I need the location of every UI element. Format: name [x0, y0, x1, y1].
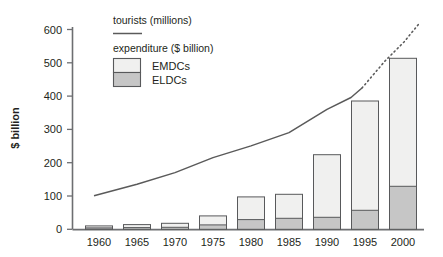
legend-swatch-eldcs: [114, 73, 141, 87]
y-tick-label-100: 100: [44, 190, 62, 202]
bar-group-1990: [314, 155, 341, 230]
bar-segment-eldcs-1985: [276, 218, 303, 229]
y-tick-label-600: 600: [44, 24, 62, 36]
chart-svg: 600 500 400 300 200 100 0 $ billion 1960…: [0, 0, 443, 257]
bar-segment-eldcs-1965: [124, 228, 151, 230]
chart-container: 600 500 400 300 200 100 0 $ billion 1960…: [0, 0, 443, 257]
bar-group-1980: [238, 197, 265, 229]
x-tick-label-1960: 1960: [87, 236, 111, 248]
y-tick-label-500: 500: [44, 57, 62, 69]
bar-group-1975: [200, 216, 227, 229]
x-tick-label-2000: 2000: [391, 236, 415, 248]
legend-bar-group-label: expenditure ($ billion): [113, 42, 213, 54]
x-tick-label-1990: 1990: [315, 236, 339, 248]
bar-segment-eldcs-1960: [86, 228, 113, 229]
x-tick-label-1970: 1970: [163, 236, 187, 248]
bar-group-1960: [86, 226, 113, 229]
x-tick-label-1985: 1985: [277, 236, 301, 248]
bar-segment-eldcs-1970: [162, 227, 189, 229]
bar-group-1970: [162, 223, 189, 229]
bar-segment-eldcs-1975: [200, 225, 227, 229]
y-axis-title: $ billion: [9, 107, 21, 149]
bar-group-1965: [124, 225, 151, 230]
x-tick-label-1995: 1995: [353, 236, 377, 248]
y-tick-label-0: 0: [56, 223, 62, 235]
legend-label-emdcs: EMDCs: [152, 60, 190, 72]
bar-segment-eldcs-2000: [390, 186, 417, 229]
bar-segment-eldcs-1980: [238, 220, 265, 230]
bar-group-2000: [390, 58, 417, 229]
bar-group-1985: [276, 194, 303, 229]
x-tick-label-1975: 1975: [201, 236, 225, 248]
bar-segment-eldcs-1990: [314, 217, 341, 229]
y-tick-label-300: 300: [44, 123, 62, 135]
y-tick-label-200: 200: [44, 157, 62, 169]
legend-label-eldcs: ELDCs: [152, 74, 187, 86]
x-tick-label-1980: 1980: [239, 236, 263, 248]
x-tick-label-1965: 1965: [125, 236, 149, 248]
legend-line-series-label: tourists (millions): [113, 14, 192, 26]
bar-group-1995: [352, 101, 379, 229]
bar-segment-eldcs-1995: [352, 210, 379, 229]
y-tick-label-400: 400: [44, 90, 62, 102]
legend-swatch-emdcs: [114, 59, 141, 73]
